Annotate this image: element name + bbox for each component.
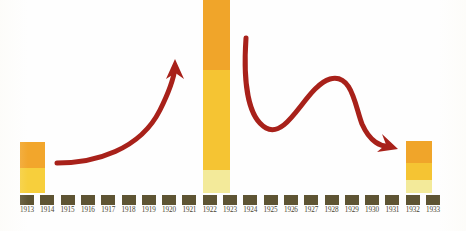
axis-tick-1933 bbox=[426, 195, 440, 205]
axis-tick-1914 bbox=[40, 195, 54, 205]
axis-tick-1927 bbox=[304, 195, 318, 205]
axis-tick-1918 bbox=[122, 195, 136, 205]
axis-label-1928: 1928 bbox=[321, 206, 343, 215]
axis-label-1929: 1929 bbox=[341, 206, 363, 215]
axis-tick-1917 bbox=[101, 195, 115, 205]
axis-tick-1926 bbox=[284, 195, 298, 205]
axis-tick-1921 bbox=[182, 195, 196, 205]
axis-label-1916: 1916 bbox=[77, 206, 99, 215]
axis-tick-1919 bbox=[142, 195, 156, 205]
axis-label-1920: 1920 bbox=[158, 206, 180, 215]
axis-label-1914: 1914 bbox=[36, 206, 58, 215]
axis-tick-1932 bbox=[406, 195, 420, 205]
axis-tick-1928 bbox=[325, 195, 339, 205]
axis-label-1915: 1915 bbox=[57, 206, 79, 215]
axis-tick-1924 bbox=[243, 195, 257, 205]
x-axis: 1913191419151916191719181919192019211922… bbox=[0, 0, 466, 231]
axis-tick-1913 bbox=[20, 195, 34, 205]
axis-tick-1915 bbox=[61, 195, 75, 205]
axis-label-1919: 1919 bbox=[138, 206, 160, 215]
axis-label-1926: 1926 bbox=[280, 206, 302, 215]
axis-label-1913: 1913 bbox=[16, 206, 38, 215]
axis-tick-1925 bbox=[264, 195, 278, 205]
axis-label-1927: 1927 bbox=[300, 206, 322, 215]
axis-tick-1916 bbox=[81, 195, 95, 205]
axis-tick-1923 bbox=[223, 195, 237, 205]
axis-tick-1920 bbox=[162, 195, 176, 205]
axis-label-1922: 1922 bbox=[199, 206, 221, 215]
axis-tick-1930 bbox=[365, 195, 379, 205]
axis-label-1925: 1925 bbox=[260, 206, 282, 215]
axis-label-1923: 1923 bbox=[219, 206, 241, 215]
axis-label-1924: 1924 bbox=[239, 206, 261, 215]
axis-label-1930: 1930 bbox=[361, 206, 383, 215]
axis-tick-1922 bbox=[203, 195, 217, 205]
axis-label-1932: 1932 bbox=[402, 206, 424, 215]
axis-label-1921: 1921 bbox=[178, 206, 200, 215]
axis-label-1918: 1918 bbox=[118, 206, 140, 215]
axis-label-1917: 1917 bbox=[97, 206, 119, 215]
axis-tick-1931 bbox=[385, 195, 399, 205]
axis-tick-1929 bbox=[345, 195, 359, 205]
axis-label-1933: 1933 bbox=[422, 206, 444, 215]
chart-canvas: 1913191419151916191719181919192019211922… bbox=[0, 0, 466, 231]
axis-label-1931: 1931 bbox=[381, 206, 403, 215]
